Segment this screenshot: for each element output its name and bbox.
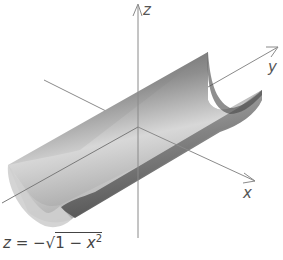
- equation-negative: −: [33, 234, 46, 252]
- x-axis-label: x: [243, 186, 252, 201]
- surface-equation: z = −√1 − x2: [3, 232, 102, 251]
- equation-lhs: z: [3, 234, 11, 252]
- radicand-exponent: 2: [96, 233, 102, 244]
- radicand: 1 − x2: [55, 232, 102, 251]
- half-cylinder-figure: [0, 0, 283, 260]
- radicand-one: 1: [55, 234, 65, 252]
- z-axis-label: z: [143, 3, 151, 18]
- radicand-minus: −: [69, 234, 82, 252]
- equation-equals: =: [16, 234, 29, 252]
- sqrt-icon: √: [46, 234, 56, 252]
- radicand-var: x: [87, 234, 96, 252]
- y-axis-label: y: [268, 60, 277, 75]
